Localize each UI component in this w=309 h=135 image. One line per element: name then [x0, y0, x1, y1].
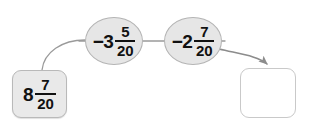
mixed-number-op1: −3 5 20	[93, 24, 136, 59]
start-whole-number: 8	[23, 85, 33, 104]
connector-start-to-op1	[42, 40, 85, 70]
mixed-number-start: 8 7 20	[23, 77, 56, 112]
connector-op2-to-result	[219, 49, 267, 64]
start-fraction: 7 20	[35, 77, 56, 112]
operation-ellipse-2[interactable]: −2 7 20	[164, 17, 222, 65]
op2-sign-and-whole: −2	[172, 32, 193, 51]
op1-minus-sign: −	[93, 31, 104, 52]
answer-box[interactable]	[240, 68, 296, 118]
op1-sign-and-whole: −3	[93, 32, 114, 51]
op1-fraction: 5 20	[115, 24, 135, 59]
start-value-box[interactable]: 8 7 20	[12, 70, 67, 118]
fraction-flow-diagram: 8 7 20 −3 5 20 −2 7 20	[0, 0, 309, 135]
op1-numerator: 5	[120, 24, 130, 39]
operation-ellipse-1[interactable]: −3 5 20	[85, 17, 143, 65]
op1-denominator: 20	[116, 43, 135, 58]
op2-minus-sign: −	[172, 31, 183, 52]
op2-numerator: 7	[199, 24, 209, 39]
op2-denominator: 20	[195, 43, 214, 58]
start-numerator: 7	[40, 77, 50, 92]
op1-whole-number: 3	[103, 31, 113, 52]
start-denominator: 20	[36, 96, 55, 111]
op2-fraction: 7 20	[194, 24, 214, 59]
op2-whole-number: 2	[182, 31, 192, 52]
mixed-number-op2: −2 7 20	[172, 24, 215, 59]
